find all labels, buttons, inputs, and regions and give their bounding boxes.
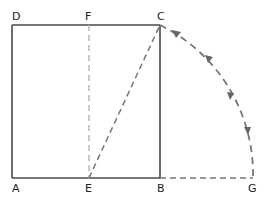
arrowhead-icon (205, 55, 213, 63)
arrowhead-icon (244, 127, 251, 135)
arrowhead-icon (227, 92, 234, 100)
label-c: C (157, 10, 165, 23)
arrowhead-icon (172, 30, 181, 38)
label-a: A (12, 182, 20, 195)
label-e: E (85, 182, 92, 195)
label-f: F (85, 10, 91, 23)
arc-arrowheads (172, 30, 251, 135)
arc-cg (160, 25, 253, 178)
label-b: B (157, 182, 165, 195)
square-abcd (12, 25, 160, 178)
label-g: G (248, 182, 257, 195)
segment-ec-diagonal (89, 25, 160, 178)
label-d: D (12, 10, 20, 23)
golden-rectangle-diagram: D F C A E B G (0, 0, 270, 199)
